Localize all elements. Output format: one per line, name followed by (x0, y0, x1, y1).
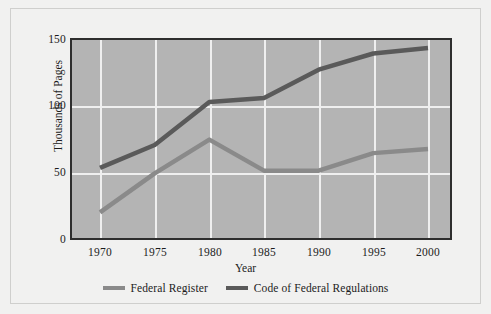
figure: 150 100 50 0 Thousands of Pages 1970 197… (0, 0, 491, 314)
x-tick-1995: 1995 (344, 246, 404, 258)
series-line-code-of-federal-regulations (100, 48, 428, 168)
series-line-federal-register (100, 140, 428, 213)
legend-swatch-code-of-federal-regulations (226, 286, 248, 290)
x-axis-label: Year (0, 262, 491, 274)
x-tick-1975: 1975 (125, 246, 185, 258)
y-axis-label: Thousands of Pages (52, 26, 64, 186)
legend-entry-code-of-federal-regulations: Code of Federal Regulations (226, 282, 389, 294)
x-tick-1970: 1970 (70, 246, 130, 258)
legend: Federal Register Code of Federal Regulat… (0, 282, 491, 294)
series-lines (72, 40, 452, 240)
legend-swatch-federal-register (103, 286, 125, 290)
legend-entry-federal-register: Federal Register (103, 282, 208, 294)
plot-area (70, 38, 452, 240)
legend-label-code-of-federal-regulations: Code of Federal Regulations (254, 282, 389, 294)
x-tick-1980: 1980 (180, 246, 240, 258)
x-tick-2000: 2000 (398, 246, 458, 258)
x-tick-1990: 1990 (289, 246, 349, 258)
legend-label-federal-register: Federal Register (131, 282, 208, 294)
y-tick-0: 0 (22, 233, 66, 245)
x-tick-1985: 1985 (234, 246, 294, 258)
